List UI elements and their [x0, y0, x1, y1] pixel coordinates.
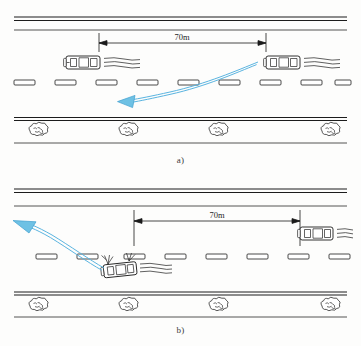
speed-lines-following-a: [304, 58, 340, 68]
roadside-shrubs-a: [29, 122, 340, 135]
maneuver-arrow-b: [13, 221, 104, 271]
approaching-car-b: [298, 227, 353, 240]
panel-b-caption: b): [0, 325, 361, 335]
dimension-70m-b: 70m: [134, 210, 300, 246]
following-car-a: [264, 56, 340, 69]
figure-root: 70m: [0, 0, 361, 346]
speed-lines-approaching-b: [337, 229, 353, 238]
panel-b-drawing: 70m: [0, 172, 361, 332]
lane-dash-markings-a: [14, 80, 351, 85]
lower-barrier-b: [14, 292, 347, 317]
upper-median-barrier: [14, 17, 347, 21]
dimension-label-b: 70m: [209, 210, 225, 220]
panel-a-caption: a): [0, 155, 361, 165]
dimension-label-a: 70m: [174, 32, 190, 42]
dimension-70m-a: 70m: [99, 32, 266, 52]
lower-barrier-a: [14, 118, 347, 144]
arrow-head-a: [118, 95, 136, 107]
speed-lines-lead-a: [104, 58, 140, 68]
arrow-head-b: [13, 221, 36, 234]
panel-a: 70m: [0, 0, 361, 175]
panel-a-drawing: 70m: [0, 0, 361, 155]
upper-median-barrier-b: [14, 189, 347, 193]
panel-b: 70m: [0, 172, 361, 346]
roadside-shrubs-b: [29, 297, 340, 310]
speed-lines-crashed-b: [140, 263, 172, 273]
lead-car-a: [64, 56, 140, 69]
